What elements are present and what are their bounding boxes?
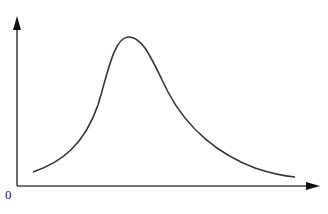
x-axis-arrow-icon [306, 182, 320, 190]
distribution-curve [33, 37, 295, 177]
y-axis-arrow-icon [13, 16, 21, 30]
origin-label: 0 [5, 187, 12, 203]
chart-canvas [0, 0, 328, 214]
